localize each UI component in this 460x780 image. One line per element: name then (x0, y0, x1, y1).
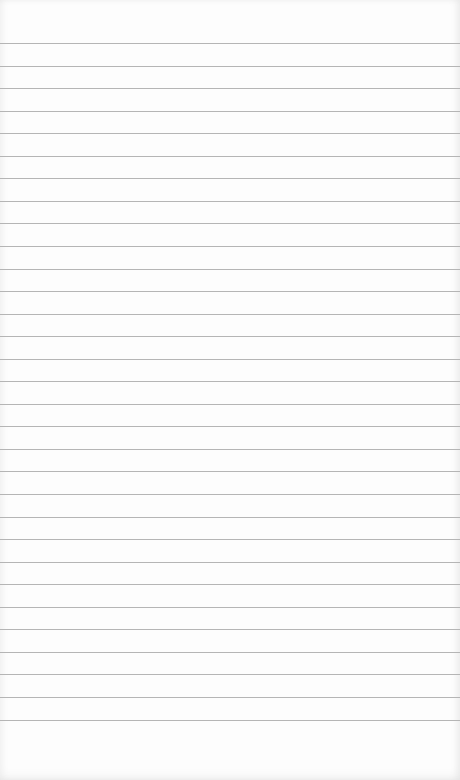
ruled-line (0, 494, 460, 495)
ruled-line (0, 246, 460, 247)
ruled-line (0, 359, 460, 360)
ruled-line (0, 629, 460, 630)
ruled-line (0, 674, 460, 675)
ruled-line (0, 652, 460, 653)
ruled-line (0, 336, 460, 337)
ruled-line (0, 449, 460, 450)
ruled-line (0, 178, 460, 179)
ruled-line (0, 269, 460, 270)
ruled-line (0, 471, 460, 472)
ruled-line (0, 223, 460, 224)
ruled-line (0, 404, 460, 405)
ruled-line (0, 539, 460, 540)
ruled-line (0, 291, 460, 292)
ruled-line (0, 381, 460, 382)
ruled-line (0, 562, 460, 563)
ruled-line (0, 201, 460, 202)
ruled-line (0, 607, 460, 608)
ruled-line (0, 43, 460, 44)
ruled-line (0, 133, 460, 134)
ruled-line (0, 584, 460, 585)
ruled-line (0, 314, 460, 315)
ruled-line (0, 426, 460, 427)
ruled-line (0, 88, 460, 89)
ruled-line (0, 156, 460, 157)
ruled-line (0, 517, 460, 518)
ruled-line (0, 697, 460, 698)
ruled-line (0, 66, 460, 67)
lined-paper (0, 0, 460, 780)
ruled-line (0, 720, 460, 721)
ruled-line (0, 111, 460, 112)
